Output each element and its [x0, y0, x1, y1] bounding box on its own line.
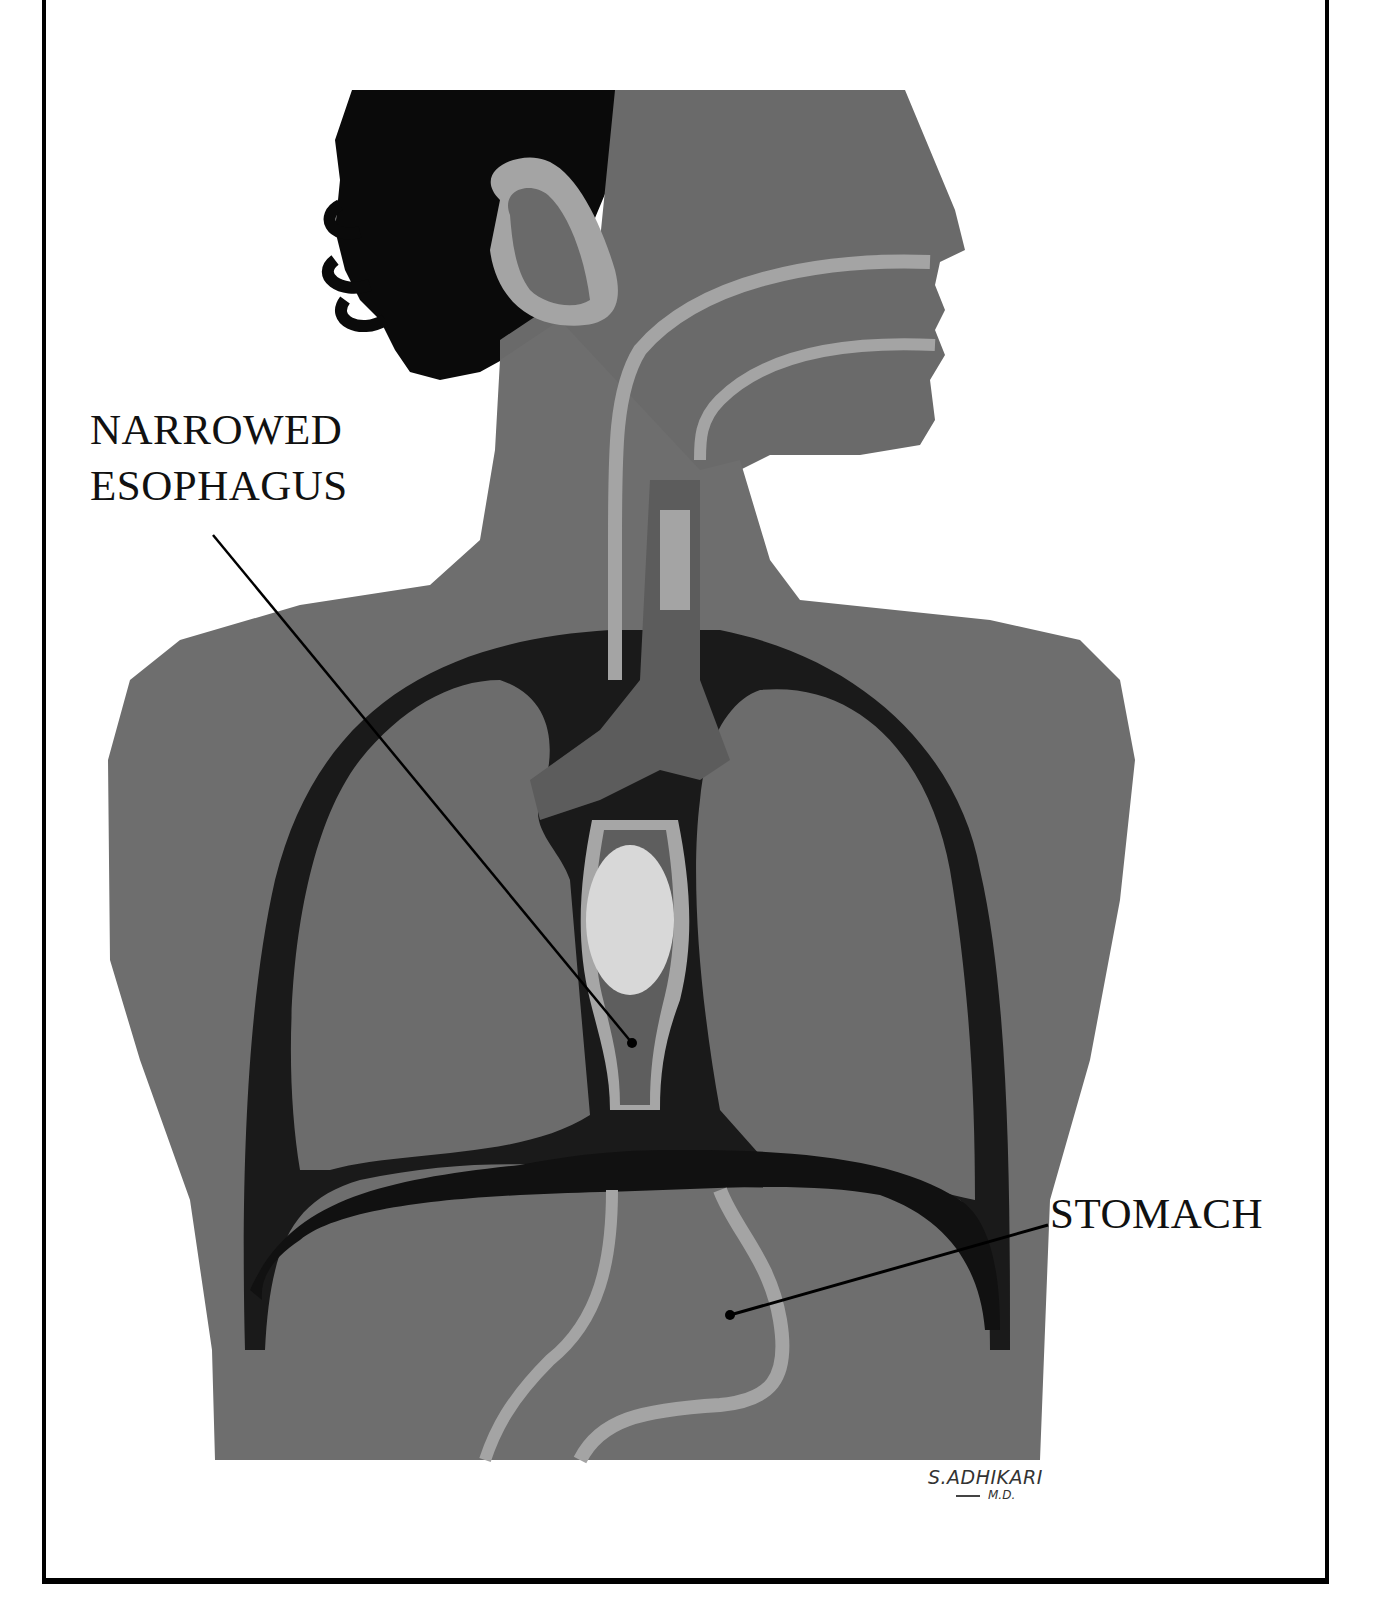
signature-credential: M.D.: [956, 1488, 1043, 1502]
label-line: STOMACH: [1050, 1186, 1263, 1242]
food-bolus: [586, 845, 674, 995]
label-narrowed-esophagus: NARROWED ESOPHAGUS: [90, 402, 348, 514]
label-stomach: STOMACH: [1050, 1186, 1263, 1242]
anatomy-illustration: [0, 0, 1379, 1600]
stomach-leader-dot: [725, 1310, 735, 1320]
artist-signature: S.ADHIKARI M.D.: [928, 1466, 1043, 1502]
esophagus-leader-dot: [627, 1038, 637, 1048]
label-line: ESOPHAGUS: [90, 458, 348, 514]
label-line: NARROWED: [90, 402, 348, 458]
signature-name: S.ADHIKARI: [928, 1466, 1043, 1488]
